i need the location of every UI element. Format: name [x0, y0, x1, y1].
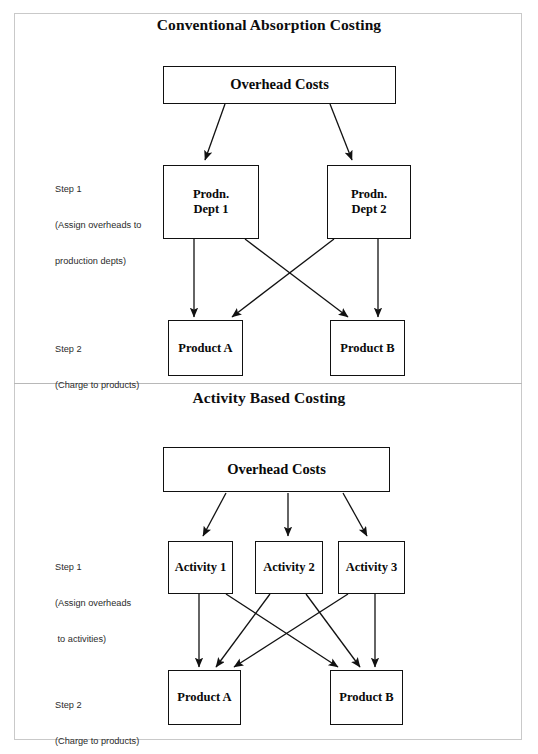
node-label: Product A — [177, 690, 231, 705]
node-activity-2: Activity 2 — [255, 541, 323, 594]
node-label: Overhead Costs — [227, 461, 326, 478]
step-label-line1: Step 2 — [55, 700, 139, 712]
node-product-a-top: Product A — [168, 320, 243, 376]
step-label-line2: (Charge to products) — [55, 736, 139, 748]
node-product-b-top: Product B — [330, 320, 405, 376]
node-label: Prodn.Dept 1 — [193, 187, 229, 217]
node-label-line2: Dept 1 — [193, 202, 228, 216]
step-label-line1: Step 1 — [55, 562, 131, 574]
step-label-line2: (Assign overheads — [55, 598, 131, 610]
node-prodn-dept-1: Prodn.Dept 1 — [163, 165, 259, 239]
node-overhead-costs-top: Overhead Costs — [163, 66, 396, 104]
node-label: Product B — [339, 690, 393, 705]
costing-diagram-figure: Conventional Absorption Costing Overhead… — [0, 0, 538, 754]
step-label-1-top: Step 1 (Assign overheads to production d… — [55, 160, 141, 291]
node-label: Overhead Costs — [230, 76, 329, 93]
step-label-line3: production depts) — [55, 256, 141, 268]
step-label-1-bottom: Step 1 (Assign overheads to activities) — [55, 538, 131, 669]
node-activity-1: Activity 1 — [168, 541, 233, 594]
node-label: Product A — [178, 341, 232, 356]
node-overhead-costs-bottom: Overhead Costs — [163, 447, 390, 492]
step-label-2-bottom: Step 2 (Charge to products) — [55, 676, 139, 754]
node-prodn-dept-2: Prodn.Dept 2 — [327, 165, 411, 239]
step-label-2-top: Step 2 (Charge to products) — [55, 320, 139, 416]
node-product-b-bottom: Product B — [330, 670, 403, 725]
node-label: Product B — [340, 341, 394, 356]
step-label-line1: Step 2 — [55, 344, 139, 356]
step-label-line2: (Assign overheads to — [55, 220, 141, 232]
node-label: Prodn.Dept 2 — [351, 187, 387, 217]
node-product-a-bottom: Product A — [168, 670, 241, 725]
step-label-line1: Step 1 — [55, 184, 141, 196]
node-label-line1: Prodn. — [193, 187, 229, 201]
node-label: Activity 1 — [175, 560, 227, 575]
node-activity-3: Activity 3 — [338, 541, 405, 594]
node-label: Activity 3 — [346, 560, 398, 575]
node-label-line1: Prodn. — [351, 187, 387, 201]
step-label-line3: to activities) — [55, 634, 131, 646]
step-label-line2: (Charge to products) — [55, 380, 139, 392]
node-label-line2: Dept 2 — [351, 202, 386, 216]
panel-title-conventional: Conventional Absorption Costing — [0, 16, 538, 34]
node-label: Activity 2 — [263, 560, 315, 575]
